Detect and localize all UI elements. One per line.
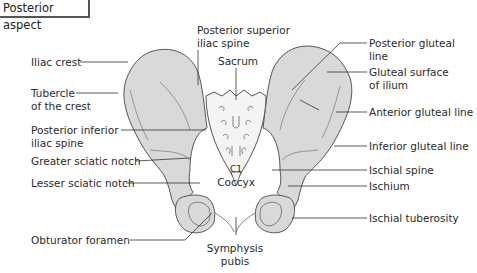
label-ischial-spine: Ischial spine [369, 164, 434, 177]
left-hip-bone [124, 49, 215, 232]
label-sacrum: Sacrum [218, 55, 256, 68]
label-c1: C1 [228, 163, 244, 176]
label-greater-sciatic-notch: Greater sciatic notch [31, 155, 141, 168]
label-iliac-crest: Iliac crest [31, 56, 81, 69]
label-tubercle-of-crest: Tubercle of the crest [31, 87, 91, 112]
label-symphysis-pubis: Symphysis pubis [205, 242, 265, 267]
label-posterior-inferior-iliac-spine: Posterior inferior iliac spine [31, 124, 118, 149]
label-ischial-tuberosity: Ischial tuberosity [369, 212, 459, 225]
label-posterior-superior-iliac-spine: Posterior superior iliac spine [197, 24, 290, 49]
label-gluteal-surface-of-ilium: Gluteal surface of ilium [369, 66, 449, 91]
label-inferior-gluteal-line: Inferior gluteal line [369, 140, 469, 153]
label-anterior-gluteal-line: Anterior gluteal line [369, 106, 473, 119]
label-lesser-sciatic-notch: Lesser sciatic notch [31, 177, 135, 190]
right-hip-bone [255, 46, 352, 233]
label-coccyx: Coccyx [216, 176, 256, 189]
label-obturator-foramen: Obturator foramen [31, 234, 130, 247]
label-posterior-gluteal-line: Posterior gluteal line [369, 37, 477, 62]
label-ischium: Ischium [369, 180, 410, 193]
